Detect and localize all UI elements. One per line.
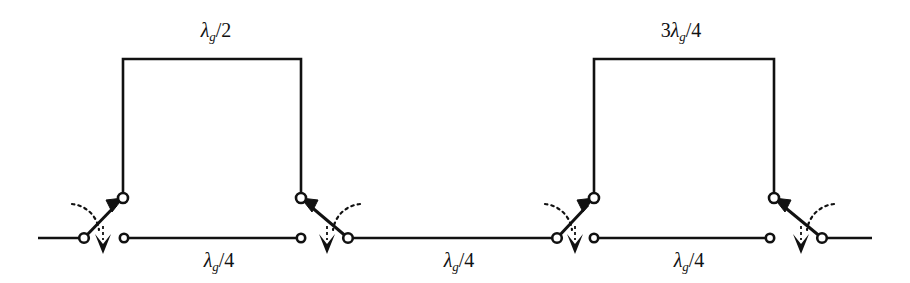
rotation-arc-icon xyxy=(333,204,360,230)
bridge-right xyxy=(594,59,774,198)
lambda-symbol: λ xyxy=(674,249,683,271)
lambda-symbol: λ xyxy=(444,249,453,271)
switch-4[interactable] xyxy=(774,198,834,254)
bridge-terminal-node-1[interactable] xyxy=(118,193,128,203)
segment-2-length-label: λg/4 xyxy=(444,250,475,273)
terminal-node-open-1[interactable] xyxy=(120,234,128,242)
bridge-right-path xyxy=(594,59,774,198)
lambda-symbol: λ xyxy=(671,19,680,41)
switch-throw-arm xyxy=(309,205,348,238)
segment-2-denominator: /4 xyxy=(459,249,475,271)
bridge-left xyxy=(123,59,301,198)
terminal-node-pivot-3[interactable] xyxy=(552,233,562,243)
down-arrow-icon xyxy=(95,234,111,254)
segment-1-denominator: /4 xyxy=(219,249,235,271)
bridge-right-length-label: 3λg/4 xyxy=(661,20,702,43)
terminal-node-pivot-2[interactable] xyxy=(343,233,353,243)
bridge-right-denominator: /4 xyxy=(686,19,702,41)
segment-3-length-label: λg/4 xyxy=(674,250,705,273)
switch-2[interactable] xyxy=(301,198,360,254)
bridge-right-coef: 3 xyxy=(661,19,671,41)
bridge-left-length-label: λg/2 xyxy=(201,20,232,43)
switch-3[interactable] xyxy=(545,198,594,254)
rotation-arc-icon xyxy=(807,204,834,230)
terminal-node-open-2[interactable] xyxy=(297,234,305,242)
terminal-node-open-3[interactable] xyxy=(590,234,598,242)
bridge-terminal-node-4[interactable] xyxy=(769,193,779,203)
switch-1[interactable] xyxy=(72,198,123,254)
segment-3-denominator: /4 xyxy=(689,249,705,271)
terminal-node-open-4[interactable] xyxy=(766,234,774,242)
lambda-symbol: λ xyxy=(204,249,213,271)
segment-1-length-label: λg/4 xyxy=(204,250,235,273)
terminal-nodes xyxy=(79,193,827,243)
bridge-left-path xyxy=(123,59,301,198)
switch-throw-arm xyxy=(782,205,822,238)
down-arrow-icon xyxy=(567,234,583,254)
down-arrow-icon xyxy=(319,234,335,254)
down-arrow-icon xyxy=(793,234,809,254)
terminal-node-pivot-4[interactable] xyxy=(817,233,827,243)
bridge-terminal-node-2[interactable] xyxy=(296,193,306,203)
terminal-node-pivot-1[interactable] xyxy=(79,233,89,243)
bridge-left-denominator: /2 xyxy=(216,19,232,41)
bridge-terminal-node-3[interactable] xyxy=(589,193,599,203)
switch-network-diagram xyxy=(0,0,910,283)
lambda-symbol: λ xyxy=(201,19,210,41)
